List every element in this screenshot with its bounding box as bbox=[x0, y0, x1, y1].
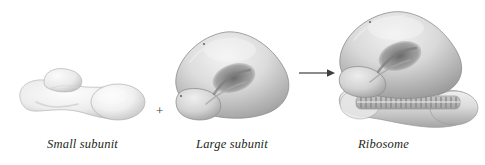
caption-ribosome: Ribosome bbox=[358, 137, 409, 152]
plus-operator: + bbox=[156, 104, 163, 117]
caption-large-subunit: Large subunit bbox=[196, 137, 268, 152]
ribosome-illustration bbox=[330, 8, 480, 132]
small-subunit-illustration bbox=[14, 58, 146, 122]
figure-canvas: Small subunit + bbox=[0, 0, 485, 165]
caption-small-subunit: Small subunit bbox=[47, 137, 118, 152]
large-subunit-illustration bbox=[168, 28, 294, 128]
